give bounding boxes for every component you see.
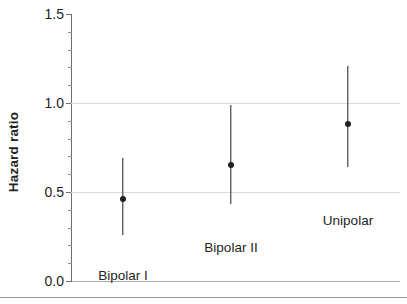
- y-tick-minor: [68, 32, 72, 33]
- category-label: Unipolar: [323, 213, 373, 228]
- y-tick-minor: [68, 174, 72, 175]
- y-tick-minor: [68, 263, 72, 264]
- error-bar: [230, 105, 231, 205]
- category-label: Bipolar I: [98, 268, 148, 283]
- y-tick-minor: [68, 228, 72, 229]
- y-tick-minor: [68, 121, 72, 122]
- y-axis-tick-labels: 0.00.51.01.5: [24, 0, 64, 304]
- y-tick-minor: [68, 139, 72, 140]
- y-tick-minor: [68, 210, 72, 211]
- category-label: Bipolar II: [204, 240, 257, 255]
- y-tick-minor: [68, 85, 72, 86]
- y-tick-minor: [68, 67, 72, 68]
- y-tick-minor: [68, 156, 72, 157]
- y-axis-line: [71, 14, 72, 281]
- data-point-marker: [228, 162, 234, 168]
- error-bar: [347, 66, 348, 167]
- y-tick-label: 1.0: [24, 95, 64, 111]
- y-tick-label: 0.0: [24, 273, 64, 289]
- y-tick-major: [66, 14, 72, 15]
- bottom-rule: [0, 297, 407, 298]
- y-tick-major: [66, 281, 72, 282]
- gridline: [71, 192, 400, 193]
- y-tick-minor: [68, 245, 72, 246]
- data-point-marker: [345, 121, 351, 127]
- y-tick-minor: [68, 50, 72, 51]
- y-axis-title: Hazard ratio: [0, 0, 26, 304]
- hazard-ratio-chart: Hazard ratio 0.00.51.01.5 Bipolar IBipol…: [0, 0, 407, 304]
- data-point-marker: [120, 196, 126, 202]
- gridline: [71, 103, 400, 104]
- y-tick-label: 0.5: [24, 184, 64, 200]
- y-tick-label: 1.5: [24, 6, 64, 22]
